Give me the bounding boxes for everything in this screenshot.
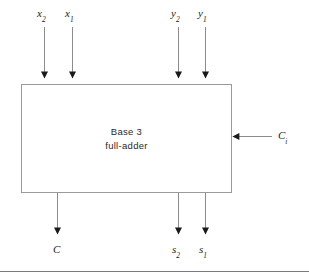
adder-block-label: Base 3 full-adder [21, 125, 232, 153]
output-label-s2: s2 [172, 244, 180, 255]
input-label-x1: x1 [65, 8, 74, 19]
input-label-x2: x2 [37, 8, 46, 19]
output-label-s1: s1 [199, 244, 207, 255]
adder-block-label-line1: Base 3 [21, 125, 232, 139]
input-label-y1: y1 [198, 8, 207, 19]
block-diagram-figure: x2 x1 y2 y1 Base 3 full-adder Ci C s2 s1 [0, 0, 309, 278]
input-label-y2: y2 [171, 8, 180, 19]
adder-block-label-line2: full-adder [21, 139, 232, 153]
input-lines-top [45, 27, 206, 78]
input-label-ci: Ci [278, 130, 287, 141]
output-label-c: C [53, 244, 60, 255]
output-lines-bottom [58, 193, 206, 234]
